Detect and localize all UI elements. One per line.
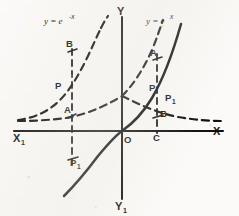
x-axis-right-label: X <box>213 125 221 137</box>
point-label-b-left-text: B <box>66 38 73 49</box>
label-curve-exp-negative-x-base: y = e <box>43 16 63 26</box>
point-label-p1-right-text: P <box>165 92 172 103</box>
point-label-p-left: P <box>55 80 62 91</box>
point-label-a-right: A <box>150 47 157 58</box>
origin-label: O <box>124 134 131 145</box>
point-label-p1-left-subscript: 1 <box>77 163 81 170</box>
point-label-p-right-text: P <box>149 82 156 93</box>
point-label-a-right-text: A <box>150 47 157 58</box>
curve-exp-negative-x-tail <box>101 16 108 28</box>
x-axis-left-label-group: X 1 <box>13 132 25 146</box>
curve-exp-negative-x <box>18 28 101 120</box>
x-axis-left-label-subscript: 1 <box>21 139 25 146</box>
y-axis-bottom-label-group: Y 1 <box>115 200 127 214</box>
exponential-curves-figure: y = e -x y = e x X X 1 Y Y 1 O B P A <box>0 0 239 216</box>
figure-canvas: y = e -x y = e x X X 1 Y Y 1 O B P A <box>0 0 239 216</box>
point-label-p1-left-text: P <box>70 157 77 168</box>
x-axis-left-label: X <box>13 132 21 144</box>
y-axis-top-label: Y <box>117 5 125 17</box>
label-curve-exp-negative-x: y = e -x <box>43 13 75 26</box>
point-label-p1-right: P 1 <box>165 92 176 105</box>
axes-group <box>14 17 223 199</box>
label-curve-exp-positive-x-base: y = e <box>145 16 165 26</box>
point-label-p1-right-subscript: 1 <box>172 98 176 105</box>
point-label-p-left-text: P <box>55 80 62 91</box>
point-label-a-left: A <box>64 104 71 115</box>
point-label-b-left: B <box>66 38 73 49</box>
point-label-p1-left: P 1 <box>70 157 81 170</box>
label-curve-exp-positive-x-exponent: x <box>169 13 174 20</box>
point-label-b-right: B <box>160 108 167 119</box>
label-curve-exp-negative-x-exponent: -x <box>69 13 75 20</box>
point-label-a-left-text: A <box>64 104 71 115</box>
y-axis-bottom-label-subscript: 1 <box>123 207 127 214</box>
point-label-b-right-text: B <box>160 108 167 119</box>
y-axis-bottom-label: Y <box>115 200 123 212</box>
label-curve-exp-positive-x: y = e x <box>145 13 174 26</box>
point-label-c-axis-text: C <box>153 132 160 143</box>
point-label-c-axis: C <box>153 132 160 143</box>
point-label-p-right: P <box>149 82 156 93</box>
